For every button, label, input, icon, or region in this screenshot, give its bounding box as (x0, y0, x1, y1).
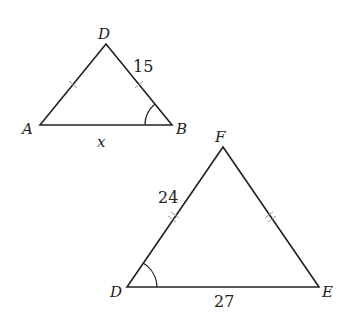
vertex-label-b: B (175, 120, 187, 138)
side-label-db: 15 (133, 57, 153, 76)
diagram-canvas: D A B 15 x F D E 24 27 (0, 0, 342, 320)
vertex-label-a: A (20, 120, 33, 138)
side-label-ab: x (97, 133, 106, 151)
side-label-de: 27 (214, 292, 234, 311)
vertex-label-d1: D (97, 25, 110, 43)
triangle-def (127, 147, 319, 287)
vertex-label-e: E (321, 283, 333, 301)
similar-triangles-figure: D A B 15 x F D E 24 27 (0, 0, 342, 320)
vertex-label-d2: D (109, 283, 122, 301)
vertex-label-f: F (214, 128, 226, 146)
side-label-df: 24 (158, 188, 178, 207)
